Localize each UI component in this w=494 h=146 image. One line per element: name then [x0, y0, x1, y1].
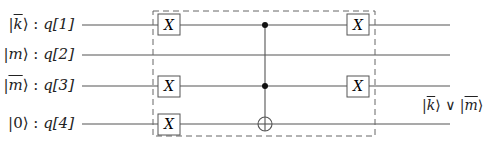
x-gate-label: X	[163, 78, 175, 94]
register-name: q[2]	[43, 45, 74, 63]
x-gate-label: X	[163, 116, 175, 132]
separator: :	[29, 114, 44, 132]
circuit-canvas: X X X X X	[0, 0, 494, 146]
control-dot-q1	[262, 22, 268, 28]
ket-close: ⟩	[478, 97, 483, 113]
ket-body: m	[8, 76, 22, 94]
qubit-wires	[82, 25, 450, 124]
register-name: q[4]	[43, 114, 74, 132]
ket-close: ⟩	[435, 97, 440, 113]
register-name: q[3]	[43, 76, 74, 94]
ket-body: 0	[13, 114, 23, 132]
separator: :	[29, 15, 44, 33]
ket-body: m	[8, 45, 22, 63]
target-oplus-icon	[258, 117, 272, 131]
x-gate-label: X	[163, 17, 175, 33]
or-symbol: ∨	[445, 97, 455, 113]
qubit-label-q2: |m⟩ : q[2]	[3, 47, 74, 62]
x-gate-label: X	[352, 78, 364, 94]
qubit-label-q1: |k⟩ : q[1]	[9, 17, 74, 32]
control-dot-q3	[262, 83, 268, 89]
separator: :	[29, 45, 44, 63]
register-name: q[1]	[43, 15, 74, 33]
output-state-label: |k⟩ ∨ |m⟩	[422, 98, 483, 112]
x-gate-label: X	[352, 17, 364, 33]
qubit-label-q3: |m⟩ : q[3]	[3, 78, 74, 93]
ket-body-k: k	[427, 97, 435, 113]
qubit-label-q4: |0⟩ : q[4]	[8, 116, 74, 131]
ket-body: k	[14, 15, 23, 33]
ket-body-m: m	[465, 97, 478, 113]
separator: :	[29, 76, 44, 94]
